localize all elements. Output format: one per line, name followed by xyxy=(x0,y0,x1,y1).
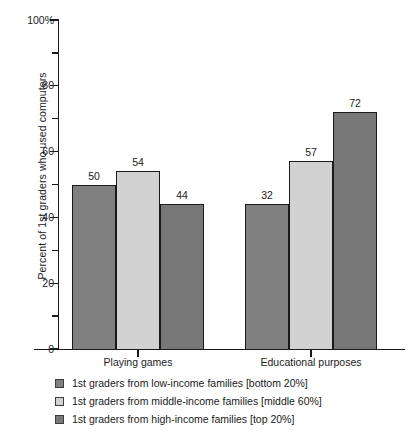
bar-1-1 xyxy=(289,161,333,350)
x-axis-category-label-1: Educational purposes xyxy=(221,356,401,368)
x-axis-category-label-0: Playing games xyxy=(48,356,228,368)
legend-item-low-income: 1st graders from low-income families [bo… xyxy=(0,374,409,392)
legend-label-low-income: 1st graders from low-income families [bo… xyxy=(72,378,308,389)
bar-1-0 xyxy=(245,204,289,350)
y-tick-minor-30 xyxy=(52,250,59,251)
y-tick-minor-10 xyxy=(52,315,59,316)
y-tick-label-40: 40 xyxy=(42,212,54,223)
y-tick-label-80: 80 xyxy=(42,80,54,91)
legend-item-high-income: 1st graders from high-income families [t… xyxy=(0,410,409,428)
bar-1-2 xyxy=(333,112,377,350)
legend-item-middle-income: 1st graders from middle-income families … xyxy=(0,392,409,410)
chart-legend: 1st graders from low-income families [bo… xyxy=(0,374,409,428)
y-tick-label-60: 60 xyxy=(42,146,54,157)
legend-label-high-income: 1st graders from high-income families [t… xyxy=(72,414,294,425)
legend-swatch-high-income xyxy=(55,415,64,424)
bar-value-label-0-0: 50 xyxy=(72,170,116,182)
bar-value-label-1-1: 57 xyxy=(289,146,333,158)
y-tick-label-0: 0 xyxy=(48,344,54,355)
legend-swatch-low-income xyxy=(55,379,64,388)
bar-value-label-0-2: 44 xyxy=(160,189,204,201)
bar-chart: Percent of 1st graders who used computer… xyxy=(0,0,409,433)
y-tick-minor-90 xyxy=(52,52,59,53)
bar-0-2 xyxy=(160,204,204,350)
bar-value-label-0-1: 54 xyxy=(116,156,160,168)
bar-0-0 xyxy=(72,185,116,351)
bar-0-1 xyxy=(116,171,160,350)
y-tick-minor-70 xyxy=(52,118,59,119)
bar-value-label-1-0: 32 xyxy=(245,189,289,201)
y-tick-label-20: 20 xyxy=(42,278,54,289)
legend-label-middle-income: 1st graders from middle-income families … xyxy=(72,396,322,407)
plot-area: Percent of 1st graders who used computer… xyxy=(0,0,409,372)
legend-swatch-middle-income xyxy=(55,397,64,406)
y-tick-label-100: 100% xyxy=(27,15,54,26)
y-tick-minor-50 xyxy=(52,184,59,185)
bar-value-label-1-2: 72 xyxy=(333,97,377,109)
